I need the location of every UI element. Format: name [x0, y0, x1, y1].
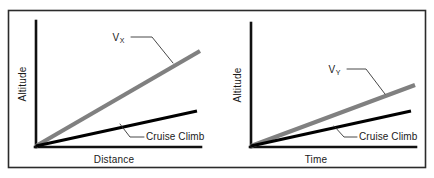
- figure-border: [9, 11, 426, 168]
- left-chart-vx-label: V: [113, 32, 120, 43]
- left-chart-vx-leader: [131, 37, 173, 63]
- right-chart-vy-subscript: Y: [336, 69, 341, 76]
- left-chart-cruise-climb-label: Cruise Climb: [146, 131, 205, 142]
- right-chart: V Y Cruise Climb Altitude Time: [232, 23, 418, 165]
- right-chart-vy-leader: [347, 69, 385, 94]
- climb-performance-figure: V X Cruise Climb Altitude Distance: [0, 0, 434, 178]
- left-chart-vx-subscript: X: [120, 37, 125, 44]
- left-chart-y-axis-label: Altitude: [17, 66, 28, 101]
- left-chart: V X Cruise Climb Altitude Distance: [17, 21, 205, 165]
- right-chart-x-axis-label: Time: [305, 154, 328, 165]
- right-chart-y-axis-label: Altitude: [232, 67, 243, 102]
- figure-root: V X Cruise Climb Altitude Distance: [0, 0, 434, 178]
- right-chart-cruise-climb-label: Cruise Climb: [359, 131, 418, 142]
- right-chart-vy-label: V: [329, 64, 336, 75]
- left-chart-x-axis-label: Distance: [94, 154, 135, 165]
